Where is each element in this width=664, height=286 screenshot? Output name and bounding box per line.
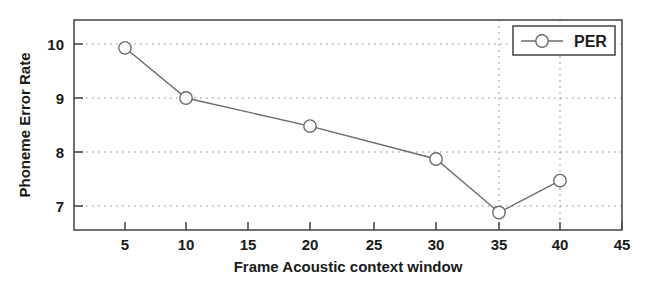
xtick-label-30: 30 [428,236,445,253]
data-point-x40 [554,174,566,186]
xtick-label-35: 35 [491,236,508,253]
legend-marker-circle-icon [536,35,548,47]
ytick-label-8: 8 [56,144,64,161]
ytick-label-7: 7 [56,198,64,215]
chart-figure: 10 9 8 7 5 10 15 20 25 30 35 40 45 Frame… [0,0,664,286]
xtick-label-10: 10 [178,236,195,253]
xtick-label-40: 40 [552,236,569,253]
ytick-label-9: 9 [56,90,64,107]
y-axis-label: Phoneme Error Rate [16,52,33,197]
xtick-label-25: 25 [366,236,383,253]
data-point-x5 [119,42,131,54]
x-axis-label: Frame Acoustic context window [234,258,463,275]
xtick-label-5: 5 [121,236,129,253]
per-vs-context-window-line-chart: 10 9 8 7 5 10 15 20 25 30 35 40 45 Frame… [0,0,664,286]
chart-legend[interactable]: PER [513,26,615,55]
xtick-label-15: 15 [240,236,257,253]
xtick-label-20: 20 [302,236,319,253]
data-point-x10 [180,92,192,104]
xtick-label-45: 45 [614,236,631,253]
data-point-x30 [430,153,442,165]
data-point-x35 [493,206,505,218]
data-point-x20 [304,120,316,132]
legend-label-per: PER [574,33,607,50]
ytick-label-10: 10 [47,36,64,53]
